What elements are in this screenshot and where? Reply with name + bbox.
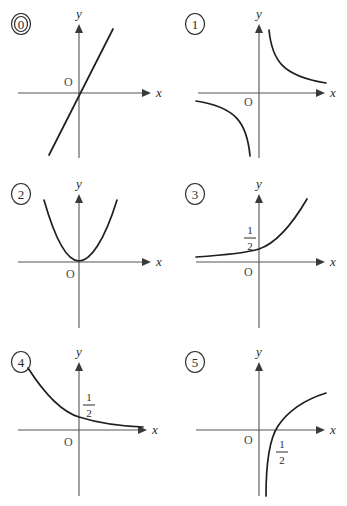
y-axis-label: y: [254, 344, 262, 359]
x-axis-label: x: [151, 422, 158, 437]
x-axis-arrow: [142, 89, 151, 97]
graph-option-0[interactable]: 0 x y O: [0, 0, 173, 168]
x-axis-arrow: [316, 89, 325, 97]
option-marker-2: 2: [12, 184, 31, 205]
y-axis-label: y: [74, 6, 82, 21]
x-axis-arrow: [142, 258, 151, 266]
option-marker-4: 4: [12, 352, 31, 373]
fraction-denominator: 2: [86, 407, 92, 419]
option-marker-label-0: 0: [18, 17, 25, 32]
x-axis-arrow: [316, 426, 325, 434]
y-axis-label: y: [74, 344, 82, 359]
curve-logarithmic-increasing: [266, 393, 326, 496]
answer-options-figure: 0 x y O 1 x y O: [0, 0, 347, 506]
graph-option-1[interactable]: 1 x y O: [174, 0, 347, 168]
x-axis-label: x: [155, 254, 162, 269]
y-axis-arrow: [255, 24, 263, 33]
graph-option-2[interactable]: 2 x y O: [0, 170, 173, 338]
curve-hyperbola-branch-upper-right: [269, 30, 326, 83]
x-axis-label: x: [329, 422, 336, 437]
y-axis-label: y: [254, 176, 262, 191]
origin-label: O: [244, 95, 253, 109]
fraction-numerator: 1: [247, 224, 253, 236]
origin-label: O: [64, 435, 73, 449]
origin-label: O: [64, 75, 73, 89]
option-marker-label-5: 5: [192, 355, 199, 370]
y-axis-arrow: [75, 24, 83, 33]
y-axis-label: y: [74, 176, 82, 191]
origin-label: O: [66, 267, 75, 281]
fraction-numerator: 1: [86, 391, 92, 403]
y-axis-label: y: [254, 6, 262, 21]
option-marker-label-4: 4: [18, 355, 25, 370]
y-axis-arrow: [75, 362, 83, 371]
graph-option-3[interactable]: 3 x y O 1 2: [174, 170, 347, 338]
graph-option-4[interactable]: 4 x y O 1 2: [0, 338, 173, 506]
option-marker-5: 5: [186, 352, 205, 373]
option-marker-3: 3: [186, 184, 205, 205]
fraction-denominator: 2: [279, 454, 285, 466]
x-axis-label: x: [155, 85, 162, 100]
origin-label: O: [244, 265, 253, 279]
curve-linear-increasing: [49, 29, 113, 155]
y-intercept-fraction-one-half: 1 2: [83, 391, 95, 419]
option-marker-0: 0: [12, 14, 31, 35]
origin-label: O: [244, 433, 253, 447]
option-marker-label-3: 3: [192, 187, 199, 202]
x-axis-label: x: [329, 254, 336, 269]
option-marker-1: 1: [186, 14, 205, 35]
graph-option-5[interactable]: 5 x y O 1 2: [174, 338, 347, 506]
option-marker-label-2: 2: [18, 187, 25, 202]
fraction-numerator: 1: [279, 438, 285, 450]
curve-hyperbola-branch-lower-left: [196, 101, 250, 156]
curve-parabola-upward: [44, 200, 117, 261]
option-marker-label-1: 1: [192, 17, 199, 32]
x-intercept-fraction-one-half: 1 2: [276, 438, 288, 466]
y-axis-arrow: [75, 194, 83, 203]
y-axis-arrow: [255, 362, 263, 371]
y-intercept-fraction-one-half: 1 2: [244, 224, 256, 252]
y-axis-arrow: [255, 194, 263, 203]
x-axis-label: x: [329, 85, 336, 100]
x-axis-arrow: [316, 258, 325, 266]
